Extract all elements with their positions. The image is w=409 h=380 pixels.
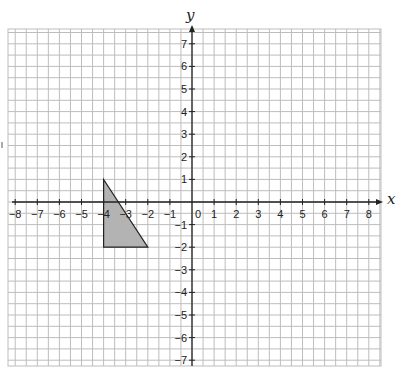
- y-tick-label: −6: [174, 332, 187, 344]
- y-axis-label: y: [185, 6, 195, 24]
- y-tick-label: 6: [181, 60, 187, 72]
- x-axis-label: x: [387, 190, 396, 208]
- coordinate-grid: −8−7−6−5−4−3−2−1012345678−7−6−5−4−3−2−11…: [0, 0, 409, 380]
- x-tick-label: 4: [277, 208, 283, 220]
- y-tick-label: −1: [174, 219, 187, 231]
- x-tick-label: −7: [31, 208, 44, 220]
- x-tick-label: 2: [233, 208, 239, 220]
- x-tick-label: 3: [255, 208, 261, 220]
- x-tick-label: 1: [211, 208, 217, 220]
- y-tick-label: −3: [174, 264, 187, 276]
- y-tick-label: −7: [174, 354, 187, 366]
- y-tick-label: 5: [181, 83, 187, 95]
- x-tick-label: −6: [53, 208, 66, 220]
- x-tick-label: 0: [195, 208, 201, 220]
- y-tick-label: 2: [181, 151, 187, 163]
- y-tick-label: 1: [181, 173, 187, 185]
- y-tick-label: 4: [181, 106, 187, 118]
- x-tick-label: 5: [299, 208, 305, 220]
- x-tick-label: 6: [322, 208, 328, 220]
- y-tick-label: −2: [174, 241, 187, 253]
- y-tick-label: 7: [181, 38, 187, 50]
- x-tick-label: −5: [75, 208, 88, 220]
- x-tick-label: −3: [119, 208, 132, 220]
- x-tick-label: 7: [344, 208, 350, 220]
- y-tick-label: −5: [174, 309, 187, 321]
- x-tick-label: 8: [366, 208, 372, 220]
- x-tick-label: −2: [142, 208, 155, 220]
- x-tick-label: −4: [97, 208, 110, 220]
- margin-mark: [1, 142, 3, 148]
- y-tick-label: 3: [181, 128, 187, 140]
- y-tick-label: −4: [174, 286, 187, 298]
- x-tick-label: −8: [9, 208, 22, 220]
